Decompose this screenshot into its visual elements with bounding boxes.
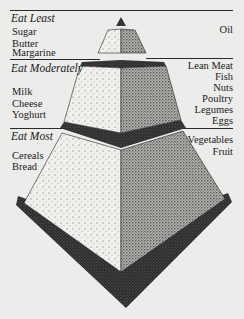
item-nuts: Nuts [213, 83, 233, 94]
item-poultry: Poultry [202, 94, 233, 105]
food-pyramid-diagram: Eat Least Sugar Butter Margarine Oil Eat… [0, 0, 244, 319]
item-fruit: Fruit [213, 147, 233, 158]
item-cheese: Cheese [12, 99, 42, 110]
item-vegetables: Vegetables [188, 135, 233, 146]
item-fish: Fish [215, 72, 233, 83]
item-margarine: Margarine [12, 48, 56, 59]
item-yoghurt: Yoghurt [12, 110, 46, 121]
item-milk: Milk [12, 87, 32, 98]
item-cereals: Cereals [12, 151, 44, 162]
heading-eat-most: Eat Most [11, 131, 53, 143]
item-eggs: Eggs [212, 116, 233, 127]
heading-eat-moderately: Eat Moderately [11, 63, 83, 75]
tier-eat-least-shape [98, 29, 146, 53]
item-bread: Bread [12, 162, 37, 173]
item-oil: Oil [220, 25, 233, 36]
item-sugar: Sugar [12, 27, 37, 38]
tier-eat-most-shape [24, 131, 225, 272]
apex-triangle [116, 17, 126, 26]
heading-eat-least: Eat Least [11, 13, 55, 25]
item-lean-meat: Lean Meat [188, 61, 233, 72]
item-legumes: Legumes [195, 105, 234, 116]
